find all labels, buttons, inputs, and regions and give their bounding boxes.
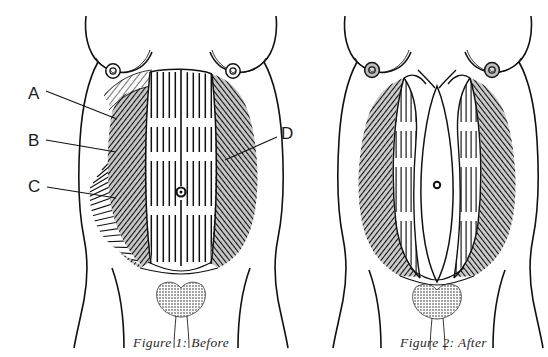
figure-2-nipple-left [365,63,380,78]
illustration-page: A B C D Figure 1: Before Figure 2: After [0,0,548,357]
anatomy-illustration: A B C D Figure 1: Before Figure 2: After [0,0,548,357]
label-c-text: C [28,177,40,196]
figure-1-nipple-right [226,64,240,78]
label-d-text: D [281,124,293,143]
figure-1-lower-abdomen [140,262,218,274]
figure-1-rectus-abdominis-left [144,68,184,268]
figure-2-external-oblique-right [444,70,524,285]
figure-1-group [74,16,288,348]
figure-2-external-oblique-left [350,70,430,285]
figure-2-navel [433,181,441,189]
figure-1-caption: Figure 1: Before [132,335,229,350]
label-a: A [28,84,117,119]
label-b-text: B [28,131,39,150]
figure-1-navel [175,186,186,197]
label-a-text: A [28,84,40,103]
figure-2-caption: Figure 2: After [399,335,487,350]
figure-1-nipple-left [106,64,120,78]
figure-2-nipple-right [485,63,500,78]
figure-2-group [333,16,543,350]
